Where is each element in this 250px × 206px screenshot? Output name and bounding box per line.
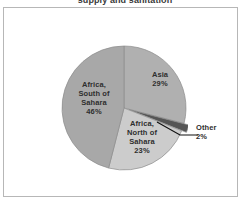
chart-page: supply and sanitation Asia 29% Africa, S… bbox=[0, 0, 250, 206]
pie-slice-label-asia: Asia 29% bbox=[135, 70, 185, 88]
plot-frame: Asia 29% Africa, South of Sahara 46% Afr… bbox=[3, 7, 238, 197]
chart-title: supply and sanitation bbox=[0, 0, 250, 5]
pie-slice-label-other: Other 2% bbox=[196, 123, 244, 141]
pie-slice-label-africa-south-of-sahara: Africa, South of Sahara 46% bbox=[66, 80, 122, 116]
